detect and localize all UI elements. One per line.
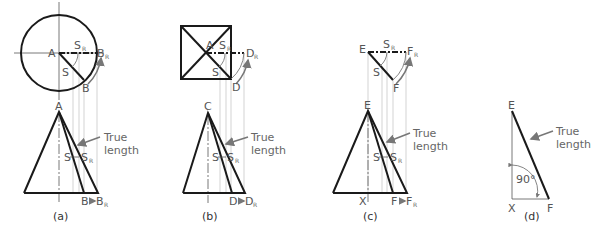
svg-text:F: F: [391, 195, 397, 208]
svg-text:F: F: [406, 195, 412, 208]
svg-text:F: F: [393, 82, 399, 95]
svg-text:S: S: [373, 66, 380, 79]
svg-text:R: R: [391, 44, 395, 51]
svg-text:True: True: [250, 131, 275, 144]
svg-text:R: R: [398, 157, 402, 164]
svg-text:90°: 90°: [516, 173, 536, 186]
svg-text:F: F: [407, 45, 413, 58]
svg-text:F: F: [547, 202, 553, 215]
caption-b: (b): [202, 210, 218, 223]
svg-text:S: S: [81, 151, 88, 164]
true-length-arrow-icon: [531, 131, 553, 139]
svg-text:R: R: [82, 45, 86, 52]
svg-text:S: S: [383, 38, 390, 51]
svg-text:R: R: [235, 157, 239, 164]
svg-text:S: S: [219, 39, 226, 52]
diagram-canvas: A S R S B R B A S S R B B R True length …: [0, 0, 599, 238]
svg-text:S: S: [373, 151, 380, 164]
label-sr: S: [74, 39, 81, 52]
svg-text:A: A: [206, 39, 214, 52]
caption-d: (d): [524, 210, 540, 223]
svg-text:R: R: [253, 201, 257, 208]
svg-text:S: S: [212, 66, 219, 79]
label-end-r: B: [97, 47, 105, 60]
svg-text:B: B: [96, 195, 104, 208]
svg-text:True: True: [103, 131, 128, 144]
svg-text:length: length: [556, 138, 591, 151]
panel-c: E S R S F R F E S S R X F F R True lengt…: [333, 38, 448, 223]
svg-text:D: D: [229, 195, 237, 208]
label-end: B: [82, 82, 90, 95]
svg-text:R: R: [105, 53, 109, 60]
revolve-arrow-icon: [88, 58, 101, 84]
svg-text:length: length: [251, 144, 286, 157]
label-apex: A: [55, 100, 63, 113]
svg-text:X: X: [508, 202, 516, 215]
true-length-arrow-icon: [226, 137, 248, 144]
svg-text:R: R: [254, 53, 258, 60]
svg-text:S: S: [64, 151, 71, 164]
svg-text:E: E: [359, 43, 366, 56]
svg-text:R: R: [104, 201, 108, 208]
caption-c: (c): [363, 210, 378, 223]
caption-a: (a): [53, 210, 68, 223]
panel-d: E 90° X F True length (d): [508, 99, 591, 223]
svg-text:True: True: [412, 127, 437, 140]
svg-text:D: D: [232, 81, 240, 94]
svg-text:length: length: [104, 144, 139, 157]
svg-text:X: X: [359, 195, 367, 208]
svg-text:R: R: [413, 201, 417, 208]
svg-text:S: S: [390, 151, 397, 164]
svg-text:R: R: [89, 157, 93, 164]
label-s: S: [62, 66, 69, 79]
svg-text:C: C: [204, 100, 212, 113]
svg-text:B: B: [81, 195, 89, 208]
panel-b: A S R S D R D C S S R D D R True length …: [181, 26, 286, 223]
svg-text:E: E: [364, 99, 371, 112]
svg-text:R: R: [414, 51, 418, 58]
true-length-arrow-icon: [387, 133, 410, 142]
svg-text:E: E: [508, 99, 515, 112]
svg-text:R: R: [227, 45, 231, 52]
svg-text:S: S: [212, 151, 219, 164]
label-center: A: [48, 47, 56, 60]
svg-text:length: length: [413, 140, 448, 153]
svg-text:True: True: [555, 125, 580, 138]
revolve-arrow-icon: [396, 58, 410, 84]
panel-a: A S R S B R B A S S R B B R True length …: [14, 2, 139, 223]
svg-text:S: S: [227, 151, 234, 164]
